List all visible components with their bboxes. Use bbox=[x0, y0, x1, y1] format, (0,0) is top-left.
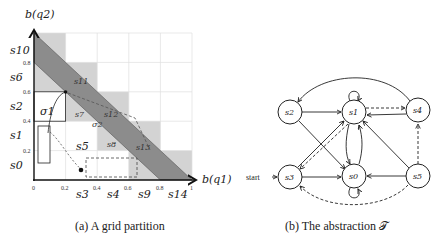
node-label-s2: s2 bbox=[285, 108, 294, 117]
node-label-s5: s5 bbox=[413, 172, 422, 181]
start-point-dot bbox=[79, 168, 84, 173]
x-tick: 1 bbox=[190, 185, 193, 191]
x-tick: 0.4 bbox=[93, 185, 101, 191]
edge-s0-s0-loop bbox=[349, 188, 359, 198]
row-label: s6 bbox=[10, 71, 23, 84]
cell-label-s5: s5 bbox=[76, 140, 89, 153]
col-label: s14 bbox=[168, 188, 188, 201]
caption-b: (b) The abstraction 𝒯 bbox=[285, 219, 390, 233]
row-label: s0 bbox=[10, 159, 23, 172]
edge-s2-s0 bbox=[299, 121, 345, 169]
cell-label-s13: s13 bbox=[136, 143, 150, 152]
col-label: s9 bbox=[138, 188, 151, 201]
caption-a: (a) A grid partition bbox=[75, 219, 165, 233]
sigma1-label: σ1 bbox=[40, 105, 55, 118]
col-label: s3 bbox=[76, 188, 89, 201]
edge-s0-s1 bbox=[359, 125, 362, 164]
row-label: s2 bbox=[10, 100, 23, 113]
x-tick: 0.6 bbox=[124, 185, 132, 191]
row-label: s10 bbox=[10, 44, 30, 57]
y-tick: 0.8 bbox=[23, 60, 31, 66]
x-tick: 0.2 bbox=[61, 185, 69, 191]
figure: b(q2) b(q1) 0 0.2 0.4 0.6 0.8 1 0.2 0.4 … bbox=[0, 0, 438, 247]
node-label-s3: s3 bbox=[285, 173, 294, 182]
edge-s4-s2 bbox=[298, 78, 410, 102]
y-tick: 0.2 bbox=[23, 148, 31, 154]
x-tick: 0.8 bbox=[156, 185, 164, 191]
node-label-s1: s1 bbox=[349, 108, 358, 117]
sigma2-label: σ2 bbox=[92, 120, 103, 129]
cell-label-s7: s7 bbox=[75, 110, 85, 119]
sigma1-end-dot bbox=[64, 90, 68, 94]
start-label: start bbox=[246, 173, 261, 182]
edge-s5-s1 bbox=[363, 121, 409, 168]
edge-s3-s1 bbox=[298, 121, 344, 167]
node-label-s0: s0 bbox=[349, 172, 358, 181]
cell-label-s11: s11 bbox=[74, 77, 88, 86]
grid-partition-plot: b(q2) b(q1) 0 0.2 0.4 0.6 0.8 1 0.2 0.4 … bbox=[10, 8, 232, 233]
y-tick: 0.4 bbox=[23, 118, 31, 124]
node-label-s4: s4 bbox=[413, 106, 422, 115]
cell-label-s12: s12 bbox=[104, 110, 118, 119]
x-tick: 0 bbox=[32, 185, 35, 191]
y-tick: 0.6 bbox=[23, 89, 31, 95]
edge-s1-s3-dashed bbox=[300, 124, 348, 169]
y-axis-label: b(q2) bbox=[25, 8, 55, 21]
x-axis-label: b(q1) bbox=[202, 173, 232, 186]
edge-s4-s1 bbox=[367, 114, 406, 115]
edge-s1-s0 bbox=[346, 124, 350, 164]
row-label: s1 bbox=[10, 129, 23, 142]
cell-label-s8: s8 bbox=[107, 140, 116, 149]
col-label: s4 bbox=[107, 188, 120, 201]
